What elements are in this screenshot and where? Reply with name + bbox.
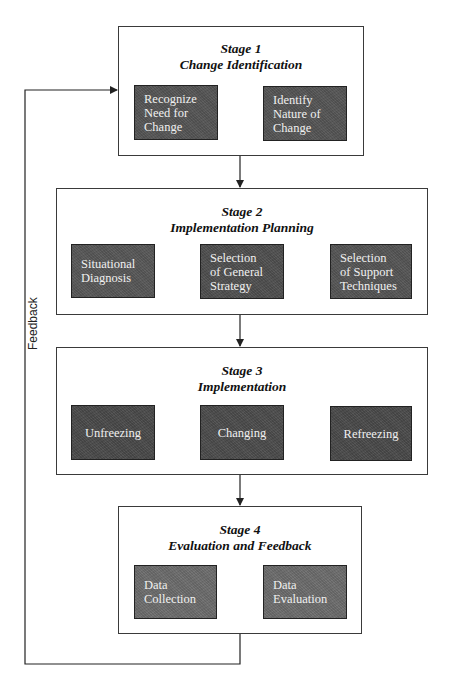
step-unfreezing: Unfreezing bbox=[71, 405, 155, 460]
step-identify-nature: Identify Nature of Change bbox=[263, 86, 347, 141]
stage-1-name: Change Identification bbox=[119, 57, 363, 73]
step-label: Identify Nature of Change bbox=[273, 93, 321, 135]
stage-3-title: Stage 3 Implementation bbox=[57, 363, 427, 395]
step-refreezing: Refreezing bbox=[330, 406, 412, 461]
step-support-techniques: Selection of Support Techniques bbox=[330, 244, 412, 299]
step-label: Situational Diagnosis bbox=[81, 257, 135, 285]
stage-4-title: Stage 4 Evaluation and Feedback bbox=[119, 522, 361, 554]
step-label: Unfreezing bbox=[85, 426, 141, 440]
stage-4-name: Evaluation and Feedback bbox=[119, 538, 361, 554]
stage-3-name: Implementation bbox=[57, 379, 427, 395]
stage-2-title: Stage 2 Implementation Planning bbox=[57, 204, 427, 236]
stage-1-title: Stage 1 Change Identification bbox=[119, 41, 363, 73]
step-general-strategy: Selection of General Strategy bbox=[200, 244, 284, 299]
step-label: Refreezing bbox=[344, 427, 399, 441]
step-label: Changing bbox=[218, 426, 267, 440]
step-data-evaluation: Data Evaluation bbox=[263, 565, 347, 619]
step-label: Data Evaluation bbox=[273, 578, 327, 606]
step-recognize-need: Recognize Need for Change bbox=[134, 85, 218, 140]
step-label: Selection of Support Techniques bbox=[340, 251, 397, 293]
step-label: Data Collection bbox=[144, 578, 196, 606]
stage-3-number: Stage 3 bbox=[57, 363, 427, 379]
feedback-label: Feedback bbox=[26, 297, 40, 350]
stage-2-number: Stage 2 bbox=[57, 204, 427, 220]
step-label: Selection of General Strategy bbox=[210, 251, 263, 293]
stage-2-name: Implementation Planning bbox=[57, 220, 427, 236]
step-situational-diagnosis: Situational Diagnosis bbox=[71, 244, 155, 298]
stage-4-number: Stage 4 bbox=[119, 522, 361, 538]
stage-1-number: Stage 1 bbox=[119, 41, 363, 57]
step-label: Recognize Need for Change bbox=[144, 92, 197, 134]
step-changing: Changing bbox=[200, 405, 284, 460]
step-data-collection: Data Collection bbox=[134, 565, 217, 619]
